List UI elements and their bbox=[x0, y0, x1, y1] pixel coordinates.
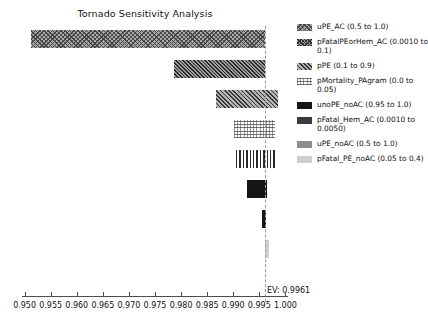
x-axis-tick bbox=[77, 292, 78, 297]
legend-swatch-icon bbox=[297, 78, 312, 85]
legend-swatch-icon bbox=[297, 24, 312, 31]
legend-item-label: pMortality_PAgram (0.0 to 0.05) bbox=[317, 76, 428, 94]
legend-swatch-icon bbox=[297, 156, 312, 163]
legend-item-pmortality-pagram[interactable]: pMortality_PAgram (0.0 to 0.05) bbox=[297, 76, 428, 94]
x-axis-tick bbox=[129, 292, 130, 297]
x-axis-tick-label: 0.950 bbox=[13, 301, 36, 310]
x-axis-tick bbox=[233, 292, 234, 297]
x-axis-tick bbox=[103, 292, 104, 297]
x-axis-tick-label: 0.955 bbox=[39, 301, 62, 310]
x-axis-tick bbox=[207, 292, 208, 297]
legend-item-label: uPE_AC (0.5 to 1.0) bbox=[317, 22, 388, 31]
chart-title: Tornado Sensitivity Analysis bbox=[0, 8, 290, 19]
x-axis-tick-label: 0.980 bbox=[170, 301, 193, 310]
legend-swatch-icon bbox=[297, 63, 312, 70]
x-axis-tick bbox=[25, 292, 26, 297]
chart-legend: uPE_AC (0.5 to 1.0)pFatalPEorHem_AC (0.0… bbox=[297, 22, 428, 169]
legend-item-upe-noac[interactable]: uPE_noAC (0.5 to 1.0) bbox=[297, 139, 428, 148]
x-axis-tick bbox=[155, 292, 156, 297]
x-axis-tick-label: 0.975 bbox=[144, 301, 167, 310]
x-axis-tick bbox=[181, 292, 182, 297]
x-axis-tick-label: 1.000 bbox=[274, 301, 297, 310]
legend-item-upe-ac[interactable]: uPE_AC (0.5 to 1.0) bbox=[297, 22, 428, 31]
x-axis-tick bbox=[259, 292, 260, 297]
plot-area: EV: 0.9961 bbox=[22, 26, 288, 291]
legend-item-pfatal-pe-noac[interactable]: pFatal_PE_noAC (0.05 to 0.4) bbox=[297, 154, 428, 163]
legend-item-unope-noac[interactable]: unoPE_noAC (0.95 to 1.0) bbox=[297, 100, 428, 109]
legend-item-pfatal-hem-ac[interactable]: pFatal_Hem_AC (0.0010 to 0.0050) bbox=[297, 115, 428, 133]
legend-swatch-icon bbox=[297, 102, 312, 109]
legend-swatch-icon bbox=[297, 141, 312, 148]
tornado-bar-pmortality-pagram bbox=[234, 120, 275, 138]
legend-item-pfatalpeorhem-ac[interactable]: pFatalPEorHem_AC (0.0010 to 0.1) bbox=[297, 37, 428, 55]
tornado-bar-unope-noac bbox=[236, 150, 275, 168]
x-axis-tick bbox=[285, 292, 286, 297]
x-axis-tick-label: 0.995 bbox=[248, 301, 271, 310]
tornado-chart: Tornado Sensitivity Analysis EV: 0.9961 … bbox=[0, 0, 428, 329]
tornado-bar-pfatalpeorhem-ac bbox=[174, 60, 265, 78]
tornado-bar-ppe bbox=[216, 90, 278, 108]
tornado-bar-upe-ac bbox=[31, 30, 265, 48]
legend-item-label: pFatalPEorHem_AC (0.0010 to 0.1) bbox=[317, 37, 428, 55]
legend-item-label: pFatal_PE_noAC (0.05 to 0.4) bbox=[317, 154, 424, 163]
x-axis-tick-label: 0.985 bbox=[196, 301, 219, 310]
x-axis-tick bbox=[51, 292, 52, 297]
x-axis-tick-label: 0.970 bbox=[117, 301, 140, 310]
legend-item-label: pFatal_Hem_AC (0.0010 to 0.0050) bbox=[317, 115, 428, 133]
legend-item-ppe[interactable]: pPE (0.1 to 0.9) bbox=[297, 61, 428, 70]
legend-item-label: pPE (0.1 to 0.9) bbox=[317, 61, 375, 70]
x-axis-tick-label: 0.960 bbox=[65, 301, 88, 310]
legend-item-label: uPE_noAC (0.5 to 1.0) bbox=[317, 139, 398, 148]
x-axis-tick-label: 0.965 bbox=[91, 301, 114, 310]
x-axis: 0.9500.9550.9600.9650.9700.9750.9800.985… bbox=[22, 296, 288, 297]
expected-value-reference-line bbox=[265, 26, 266, 302]
legend-swatch-icon bbox=[297, 117, 312, 124]
expected-value-label: EV: 0.9961 bbox=[267, 286, 310, 295]
x-axis-tick-label: 0.990 bbox=[222, 301, 245, 310]
legend-item-label: unoPE_noAC (0.95 to 1.0) bbox=[317, 100, 411, 109]
legend-swatch-icon bbox=[297, 39, 312, 46]
